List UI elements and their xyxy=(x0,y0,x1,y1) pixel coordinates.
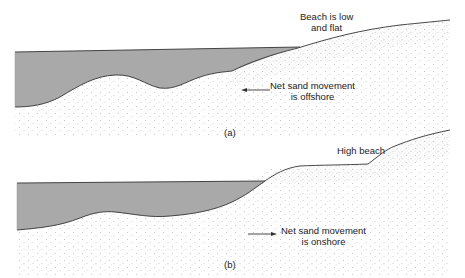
beach-label-line1: High beach xyxy=(337,145,385,156)
panel-a-caption: (a) xyxy=(224,127,236,138)
beach-low-flat-label: Beach is low and flat xyxy=(300,11,353,33)
beach-profile-diagram xyxy=(0,0,465,278)
beach-label-line2: and flat xyxy=(300,22,353,33)
movement-label-line1: Net sand movement xyxy=(281,225,366,236)
panel-b-caption: (b) xyxy=(224,259,236,270)
beach-label-line1: Beach is low xyxy=(300,11,353,22)
offshore-movement-label: Net sand movement is offshore xyxy=(270,80,355,102)
panel-a-profile xyxy=(15,20,450,135)
onshore-movement-label: Net sand movement is onshore xyxy=(281,225,366,247)
high-beach-label: High beach xyxy=(337,145,385,156)
movement-label-line1: Net sand movement xyxy=(270,80,355,91)
movement-label-line2: is onshore xyxy=(281,236,366,247)
movement-label-line2: is offshore xyxy=(270,91,355,102)
